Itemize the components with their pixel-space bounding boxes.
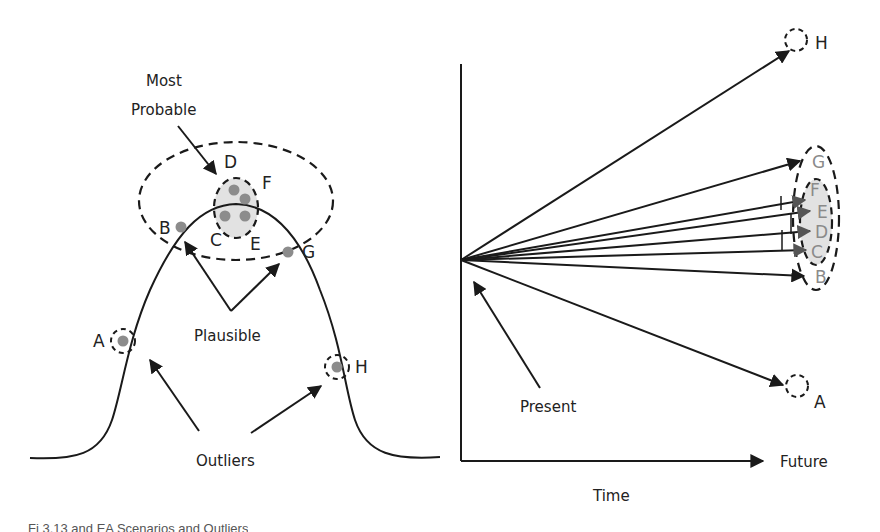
point-B-dot <box>176 222 187 233</box>
point-D-label: D <box>224 152 237 172</box>
point-E-label: E <box>250 234 261 254</box>
most-probable-label-line1: Most <box>146 72 182 90</box>
endpoint-H-ring <box>785 29 807 51</box>
point-G-label: G <box>302 242 315 262</box>
plausible-arrow-left <box>185 242 231 311</box>
point-B-label: B <box>159 218 171 238</box>
endpoint-B-label: B <box>815 267 827 287</box>
outliers-arrow-right <box>251 386 321 433</box>
future-label: Future <box>780 453 828 471</box>
endpoint-A-label: A <box>814 392 826 412</box>
endpoint-E-label: E <box>817 202 828 222</box>
point-C-dot <box>220 211 231 222</box>
scenario-diagram-figure: D F B C E G A H Most Probable Plausible … <box>0 0 880 532</box>
point-H-dot <box>332 362 343 373</box>
most-probable-arrow <box>178 126 216 174</box>
figure-caption: Fi 3.13 and EA Scenarios and Outliers <box>28 520 248 532</box>
point-F-dot <box>240 194 251 205</box>
time-axis-label: Time <box>592 487 630 505</box>
present-label: Present <box>520 398 576 416</box>
endpoint-F-label: F <box>810 180 820 200</box>
point-D-dot <box>229 185 240 196</box>
endpoint-H-label: H <box>815 33 828 53</box>
outliers-label: Outliers <box>196 452 255 470</box>
endpoint-D-label: D <box>815 222 828 242</box>
right-time-diagram: H G F E D C B A Present Future Time <box>461 29 839 505</box>
point-A-dot <box>118 336 129 347</box>
trajectory-A <box>461 260 783 385</box>
plausible-label: Plausible <box>194 327 261 345</box>
point-E-dot <box>240 211 251 222</box>
endpoint-A-ring <box>786 375 808 397</box>
point-G-dot <box>283 247 294 258</box>
point-C-label: C <box>210 230 222 250</box>
point-F-label: F <box>262 173 272 193</box>
plausible-arrow-right <box>231 264 279 311</box>
left-bell-curve-diagram: D F B C E G A H Most Probable Plausible … <box>30 72 440 470</box>
most-probable-label-line2: Probable <box>131 101 196 119</box>
point-H-label: H <box>355 357 368 377</box>
point-A-label: A <box>93 331 105 351</box>
present-arrow <box>474 282 540 388</box>
trajectory-B <box>461 260 804 276</box>
endpoint-G-label: G <box>812 152 825 172</box>
trajectory-H <box>461 51 789 260</box>
outliers-arrow-left <box>150 360 199 431</box>
endpoint-C-label: C <box>811 242 823 262</box>
